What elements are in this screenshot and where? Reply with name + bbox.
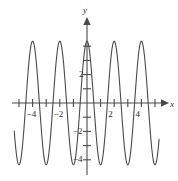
plot-area bbox=[0, 0, 178, 181]
chart-figure: −4−2242−2−4 x y bbox=[0, 0, 178, 181]
x-tick-label: 2 bbox=[108, 110, 113, 119]
y-tick-label: 2 bbox=[79, 70, 84, 79]
y-axis-arrow-head bbox=[83, 17, 90, 25]
y-tick-label: −2 bbox=[73, 127, 83, 136]
x-axis-arrow-head bbox=[161, 99, 169, 106]
x-tick-label: −2 bbox=[54, 110, 64, 119]
axes-group bbox=[12, 17, 169, 175]
x-tick-label: −4 bbox=[27, 110, 37, 119]
x-axis-label: x bbox=[170, 100, 174, 109]
y-axis-label: y bbox=[83, 6, 87, 15]
x-tick-label: 4 bbox=[135, 110, 140, 119]
y-tick-label: −4 bbox=[73, 155, 83, 164]
